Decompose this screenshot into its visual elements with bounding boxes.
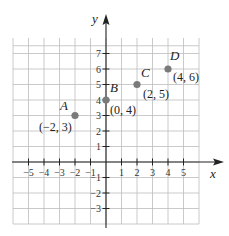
point-c xyxy=(133,81,140,88)
points: A(−2, 3)B(0, 4)C(2, 5)D(4, 6) xyxy=(39,48,199,134)
point-name: A xyxy=(59,98,68,113)
y-tick-label: −3 xyxy=(90,203,101,214)
y-tick-label: 6 xyxy=(96,64,101,75)
x-tick-label: −3 xyxy=(54,167,65,178)
x-tick-label: 4 xyxy=(166,167,171,178)
y-tick-label: 7 xyxy=(96,48,101,59)
y-tick-label: 1 xyxy=(96,141,101,152)
point-coordinates: (−2, 3) xyxy=(39,120,72,134)
point-name: C xyxy=(141,65,150,80)
y-tick-label: 3 xyxy=(96,110,101,121)
point-b xyxy=(102,96,109,103)
point-a xyxy=(71,112,78,119)
x-tick-label: 3 xyxy=(150,167,155,178)
y-tick-label: 4 xyxy=(96,95,101,106)
x-tick-label: 2 xyxy=(135,167,140,178)
y-tick-label: 5 xyxy=(96,79,101,90)
y-tick-label: 2 xyxy=(96,126,101,137)
x-axis-label: x xyxy=(209,166,216,181)
point-name: B xyxy=(110,80,118,95)
point-coordinates: (2, 5) xyxy=(143,87,169,101)
y-tick-label: −2 xyxy=(90,188,101,199)
x-tick-label: 1 xyxy=(119,167,124,178)
point-coordinates: (0, 4) xyxy=(110,103,136,117)
x-tick-label: 5 xyxy=(181,167,186,178)
x-tick-label: −5 xyxy=(23,167,34,178)
x-tick-label: −4 xyxy=(39,167,50,178)
y-axis-label: y xyxy=(90,11,98,26)
x-tick-label: −2 xyxy=(70,167,81,178)
point-d xyxy=(164,65,171,72)
y-tick-label: −1 xyxy=(90,172,101,183)
coordinate-plane: x y −5−4−3−2−112345−3−2−11234567 A(−2, 3… xyxy=(0,0,229,236)
point-coordinates: (4, 6) xyxy=(173,70,199,84)
point-name: D xyxy=(169,48,180,63)
